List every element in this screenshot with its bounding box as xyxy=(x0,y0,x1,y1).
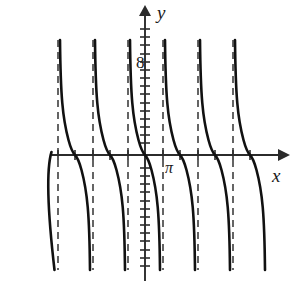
x-tick-label-pi: π xyxy=(165,160,173,176)
curve-branch-partial-left xyxy=(48,152,54,270)
y-tick-label-8: 8 xyxy=(136,54,145,71)
graph-canvas xyxy=(0,0,297,287)
x-axis-arrowhead xyxy=(278,149,290,161)
x-axis-label: x xyxy=(272,166,280,185)
function-graph-figure: y x 8 π xyxy=(0,0,297,287)
y-axis-label: y xyxy=(157,3,165,22)
y-axis-arrowhead xyxy=(139,5,151,16)
curve-branch-0-tail xyxy=(48,152,54,270)
